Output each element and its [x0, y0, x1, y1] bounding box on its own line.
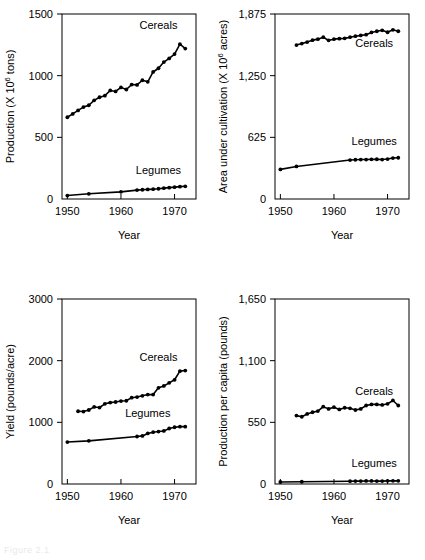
data-point [162, 429, 166, 433]
data-point [141, 188, 145, 192]
x-tick-label: 1970 [375, 490, 399, 502]
data-point [151, 393, 155, 397]
data-point [332, 37, 336, 41]
data-point [141, 434, 145, 438]
data-point [124, 399, 128, 403]
data-point [108, 89, 112, 93]
y-axis-title: Production per capita (pounds) [217, 316, 229, 466]
x-axis-title: Year [118, 514, 141, 526]
data-point [370, 31, 374, 35]
data-point [178, 185, 182, 189]
y-tick-label: 1000 [29, 70, 53, 82]
data-point [173, 185, 177, 189]
data-point [183, 184, 187, 188]
data-point [364, 479, 368, 483]
data-point [370, 479, 374, 483]
y-axis-title: Area under cultivation (X 106 acres) [216, 20, 230, 194]
x-tick-label: 1950 [55, 490, 79, 502]
data-point [114, 90, 118, 94]
series-label-cereals: Cereals [355, 385, 393, 397]
y-tick-label: 1000 [29, 416, 53, 428]
x-tick-label: 1950 [268, 490, 292, 502]
figure-caption: Figure 2.1 [4, 545, 50, 555]
data-point [396, 404, 400, 408]
data-point [157, 66, 161, 70]
data-point [87, 103, 91, 107]
data-point [103, 94, 107, 98]
data-point [364, 33, 368, 37]
data-point [183, 47, 187, 51]
data-point [295, 414, 299, 418]
data-point [386, 30, 390, 34]
data-point [82, 410, 86, 414]
x-tick-label: 1950 [55, 205, 79, 217]
data-point [167, 186, 171, 190]
data-point [391, 156, 395, 160]
data-point [391, 28, 395, 32]
chart-panel-production-per-capita: 05501,1001,650195019601970YearProduction… [213, 285, 425, 560]
data-point [124, 88, 128, 92]
data-point [370, 157, 374, 161]
series-label-cereals: Cereals [140, 351, 178, 363]
y-tick-label: 625 [248, 131, 266, 143]
y-tick-label: 1,250 [238, 70, 266, 82]
x-tick-label: 1960 [109, 490, 133, 502]
data-point [321, 405, 325, 409]
y-tick-label: 0 [260, 478, 266, 490]
data-point [311, 410, 315, 414]
series-line-cereals [296, 400, 398, 416]
y-tick-label: 0 [47, 193, 53, 205]
data-point [337, 37, 341, 41]
data-point [380, 479, 384, 483]
series-label-cereals: Cereals [140, 19, 178, 31]
data-point [146, 187, 150, 191]
data-point [316, 37, 320, 41]
data-point [82, 105, 86, 109]
data-point [354, 479, 358, 483]
plot-frame [62, 299, 196, 484]
data-point [135, 435, 139, 439]
data-point [316, 409, 320, 413]
data-point [178, 369, 182, 373]
data-point [375, 402, 379, 406]
x-axis-title: Year [331, 514, 354, 526]
data-point [76, 109, 80, 113]
data-point [173, 52, 177, 56]
data-point [157, 187, 161, 191]
data-point [375, 157, 379, 161]
data-point [386, 157, 390, 161]
data-point [359, 479, 363, 483]
y-tick-label: 500 [35, 131, 53, 143]
data-point [332, 405, 336, 409]
data-point [87, 439, 91, 443]
series-label-cereals: Cereals [355, 37, 393, 49]
data-point [396, 156, 400, 160]
chart-svg-production: 050010001500195019601970YearProduction (… [0, 0, 212, 275]
data-point [386, 402, 390, 406]
data-point [348, 406, 352, 410]
data-point [146, 80, 150, 84]
data-point [183, 425, 187, 429]
data-point [354, 408, 358, 412]
data-point [76, 409, 80, 413]
data-point [71, 112, 75, 116]
data-point [167, 427, 171, 431]
y-tick-label: 0 [47, 478, 53, 490]
data-point [295, 165, 299, 169]
data-point [300, 480, 304, 484]
data-point [321, 35, 325, 39]
x-tick-label: 1970 [162, 205, 186, 217]
y-tick-label: 0 [260, 193, 266, 205]
data-point [354, 158, 358, 162]
y-tick-label: 1500 [29, 8, 53, 20]
data-point [130, 83, 134, 87]
data-point [364, 404, 368, 408]
y-tick-label: 3000 [29, 293, 53, 305]
data-point [370, 402, 374, 406]
data-point [65, 115, 69, 119]
data-point [114, 400, 118, 404]
data-point [119, 85, 123, 89]
chart-panel-area-under-cultivation: 06251,2501,875195019601970YearArea under… [213, 0, 425, 275]
data-point [327, 38, 331, 42]
data-point [141, 78, 145, 82]
